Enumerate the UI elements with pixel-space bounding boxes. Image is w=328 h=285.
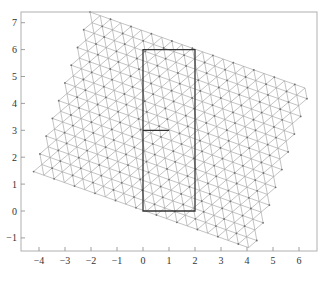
- mesh-vertex: [189, 186, 191, 188]
- mesh-vertex: [105, 97, 107, 99]
- mesh-vertex: [166, 168, 168, 170]
- mesh-vertex: [226, 80, 228, 82]
- mesh-vertex: [165, 58, 167, 60]
- mesh-vertex: [240, 154, 242, 156]
- mesh-vertex: [248, 147, 250, 149]
- mesh-vertex: [209, 193, 211, 195]
- mesh-vertex: [156, 214, 158, 216]
- mesh-vertex: [228, 140, 230, 142]
- mesh-vertex: [195, 218, 197, 220]
- mesh-vertex: [122, 33, 124, 35]
- mesh-vertex: [119, 122, 121, 124]
- mesh-vertex: [199, 140, 201, 142]
- mesh-vertex: [86, 150, 88, 152]
- mesh-vertex: [237, 243, 239, 245]
- mesh-vertex: [306, 98, 308, 100]
- mesh-vertex: [107, 157, 109, 159]
- mesh-vertex: [70, 64, 72, 66]
- mesh-vertex: [77, 47, 79, 49]
- mesh-vertex: [57, 150, 59, 152]
- mesh-vertex: [287, 151, 289, 153]
- y-tick-label: 1: [12, 179, 17, 190]
- mesh-vertex: [125, 154, 127, 156]
- mesh-vertex: [92, 132, 94, 134]
- mesh-vertex: [148, 171, 150, 173]
- mesh-vertex: [253, 119, 255, 121]
- mesh-vertex: [72, 175, 74, 177]
- mesh-vertex: [154, 154, 156, 156]
- x-tick-label: 5: [271, 255, 276, 266]
- y-tick-label: 2: [12, 152, 17, 163]
- mesh-vertex: [99, 114, 101, 116]
- mesh-vertex: [244, 225, 246, 227]
- plot-frame: [21, 12, 317, 251]
- mesh-vertex: [174, 161, 176, 163]
- mesh-vertex: [294, 133, 296, 135]
- mesh-vertex: [240, 105, 242, 107]
- mesh-vertex: [269, 204, 271, 206]
- mesh-vertex: [193, 158, 195, 160]
- mesh-vertex: [263, 172, 265, 174]
- mesh-vertex: [78, 157, 80, 159]
- mesh-vertex: [238, 94, 240, 96]
- mesh-vertex: [144, 51, 146, 53]
- mesh-vertex: [33, 171, 35, 173]
- y-tick-label: 5: [12, 71, 17, 82]
- mesh-vertex: [160, 136, 162, 138]
- mesh-vertex: [116, 50, 118, 52]
- mesh-vertex: [105, 146, 107, 148]
- mesh-vertex: [171, 40, 173, 42]
- mesh-vertex: [246, 137, 248, 139]
- mesh-vertex: [101, 25, 103, 27]
- mesh-vertex: [197, 79, 199, 81]
- mesh-vertex: [53, 178, 55, 180]
- mesh-vertex: [242, 165, 244, 167]
- mesh-vertex: [168, 179, 170, 181]
- mesh-vertex: [279, 108, 281, 110]
- mesh-vertex: [152, 143, 154, 145]
- x-tick-label: 6: [297, 255, 302, 266]
- mesh-vertex: [206, 72, 208, 74]
- mesh-vertex: [228, 190, 230, 192]
- y-tick-label: 3: [12, 125, 17, 136]
- mesh-vertex: [72, 125, 74, 127]
- mesh-vertex: [146, 111, 148, 113]
- mesh-vertex: [126, 104, 128, 106]
- mesh-vertex: [158, 125, 160, 127]
- mesh-vertex: [213, 165, 215, 167]
- y-axis: −101234567: [6, 17, 25, 243]
- mesh-vertex: [80, 167, 82, 169]
- mesh-vertex: [171, 90, 173, 92]
- mesh-vertex: [132, 86, 134, 88]
- mesh-vertex: [51, 167, 53, 169]
- mesh-vertex: [151, 33, 153, 35]
- mesh-vertex: [222, 158, 224, 160]
- mesh-vertex: [136, 58, 138, 60]
- y-tick-label: 0: [12, 206, 17, 217]
- mesh-vertex: [131, 136, 133, 138]
- mesh-vertex: [207, 133, 209, 135]
- mesh-vertex: [97, 104, 99, 106]
- mesh-vertex: [152, 93, 154, 95]
- mesh-vertex: [181, 143, 183, 145]
- mesh-vertex: [197, 229, 199, 231]
- mesh-vertex: [262, 222, 264, 224]
- mesh-vertex: [83, 79, 85, 81]
- mesh-vertex: [58, 100, 60, 102]
- mesh-vertex: [185, 65, 187, 67]
- mesh-vertex: [265, 83, 267, 85]
- mesh-vertex: [154, 203, 156, 205]
- mesh-vertex: [144, 100, 146, 102]
- mesh-vertex: [159, 76, 161, 78]
- y-tick-label: 4: [12, 98, 17, 109]
- mesh-vertex: [160, 186, 162, 188]
- mesh-vertex: [223, 218, 225, 220]
- mesh-vertex: [217, 236, 219, 238]
- mesh-vertex: [179, 83, 181, 85]
- x-tick-label: 0: [141, 255, 146, 266]
- mesh-vertex: [146, 161, 148, 163]
- mesh-vertex: [267, 144, 269, 146]
- mesh-vertex: [281, 169, 283, 171]
- mesh-vertex: [91, 121, 93, 123]
- mesh-vertex: [192, 47, 194, 49]
